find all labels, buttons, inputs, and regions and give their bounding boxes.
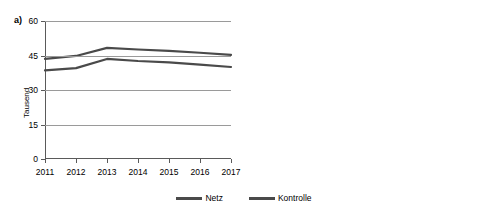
x-axis-tick-label-a: 2011 [36,167,54,177]
x-tick-mark [76,159,77,163]
x-axis-tick-label-a: 2013 [98,167,117,177]
x-tick-mark [45,159,46,163]
x-axis-tick-label-a: 2016 [191,167,210,177]
figure-container: a) Tausend 01530456020112012201320142015… [0,0,488,211]
chart-legend: NetzKontrolle [0,187,488,209]
chart-panel-a: a) Tausend 01530456020112012201320142015… [0,0,244,185]
panel-a-label: a) [14,15,22,25]
y-tick-mark [41,21,45,22]
y-axis-tick-label-a: 30 [29,85,38,95]
y-axis-tick-label-a: 60 [29,16,38,26]
y-tick-mark [41,90,45,91]
legend-label: Netz [205,193,222,203]
legend-line-swatch-icon [249,197,275,200]
legend-item[interactable]: Netz [176,193,222,203]
x-axis-tick-label-a: 2014 [129,167,148,177]
gridline [45,125,231,126]
x-tick-mark [231,159,232,163]
x-axis-tick-label-a: 2012 [67,167,86,177]
gridline [45,56,231,57]
y-axis-tick-label-a: 45 [29,51,38,61]
plot-area-a: 0153045602011201220132014201520162017 [45,21,231,159]
x-axis-tick-label-a: 2017 [222,167,241,177]
legend-line-swatch-icon [176,197,202,200]
legend-label: Kontrolle [278,193,312,203]
x-axis-tick-label-a: 2015 [160,167,179,177]
legend-item[interactable]: Kontrolle [249,193,312,203]
series-line [45,48,231,59]
gridline [45,21,231,22]
x-tick-mark [107,159,108,163]
y-tick-mark [41,125,45,126]
x-tick-mark [200,159,201,163]
chart-panel-b: b) 18%20%22%24%26%2011201220132014201520… [244,0,488,185]
y-tick-mark [41,56,45,57]
x-tick-mark [169,159,170,163]
y-axis-tick-label-a: 0 [33,154,38,164]
x-tick-mark [138,159,139,163]
y-axis-tick-label-a: 15 [29,120,38,130]
gridline [45,90,231,91]
series-line [45,59,231,70]
